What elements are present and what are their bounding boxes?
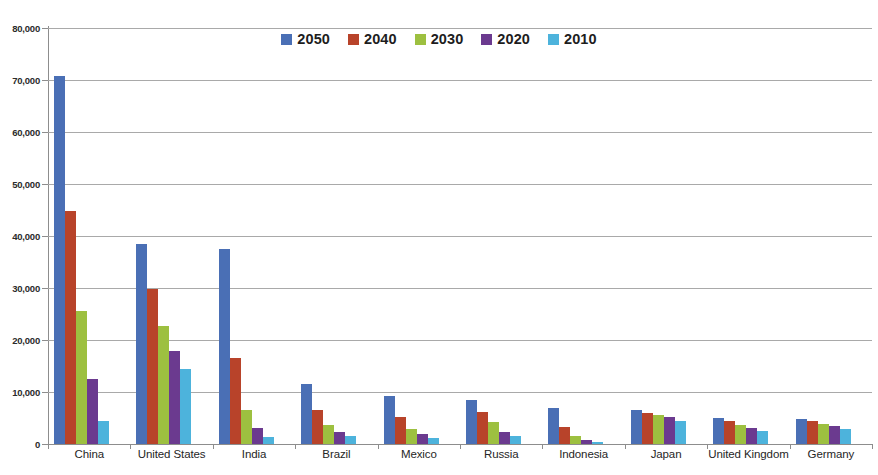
- bar: [147, 289, 158, 444]
- y-axis-tick-label: 50,000: [12, 179, 40, 190]
- y-axis-tick-label: 30,000: [12, 283, 40, 294]
- bar: [98, 421, 109, 444]
- legend-item-label: 2030: [431, 31, 464, 47]
- y-axis-tick-label: 20,000: [12, 335, 40, 346]
- legend-item[interactable]: 2030: [415, 31, 464, 47]
- y-tick-30000: [42, 288, 48, 289]
- y-axis-tick-label: 0: [35, 439, 40, 450]
- bar: [312, 410, 323, 444]
- x-tick: [872, 444, 873, 449]
- bar: [488, 422, 499, 444]
- y-tick-20000: [42, 340, 48, 341]
- x-tick: [378, 444, 379, 449]
- y-tick-60000: [42, 132, 48, 133]
- bar: [581, 440, 592, 444]
- y-axis-tick-label: 70,000: [12, 75, 40, 86]
- x-axis-tick-label: United Kingdom: [707, 448, 789, 472]
- x-tick: [707, 444, 708, 449]
- bar-group: [542, 28, 624, 444]
- bar-group: [295, 28, 377, 444]
- x-tick: [542, 444, 543, 449]
- bar: [158, 326, 169, 444]
- y-tick-70000: [42, 80, 48, 81]
- bar: [252, 428, 263, 444]
- bar: [499, 432, 510, 444]
- bar: [406, 429, 417, 444]
- legend-swatch-icon: [281, 34, 292, 45]
- bar: [54, 76, 65, 444]
- bar: [796, 419, 807, 444]
- x-axis-tick-label: Brazil: [295, 448, 377, 472]
- legend-item-label: 2010: [564, 31, 597, 47]
- y-axis-tick-label: 40,000: [12, 231, 40, 242]
- bar: [76, 311, 87, 444]
- bar: [735, 425, 746, 444]
- bar: [87, 379, 98, 444]
- bar: [384, 396, 395, 444]
- x-axis-labels: ChinaUnited StatesIndiaBrazilMexicoRussi…: [48, 448, 872, 472]
- bar: [592, 442, 603, 444]
- bar-group: [707, 28, 789, 444]
- x-axis-tick-label: Russia: [460, 448, 542, 472]
- bar: [653, 415, 664, 444]
- bar: [757, 431, 768, 444]
- legend-item[interactable]: 2040: [348, 31, 397, 47]
- x-tick: [460, 444, 461, 449]
- bar: [345, 436, 356, 444]
- legend-item-label: 2050: [297, 31, 330, 47]
- bar: [807, 421, 818, 444]
- bar-group: [213, 28, 295, 444]
- bar-group: [790, 28, 872, 444]
- legend-item-label: 2020: [497, 31, 530, 47]
- bar-group: [625, 28, 707, 444]
- chart-legend: 20502040203020202010: [0, 31, 878, 47]
- y-axis-tick-label: 10,000: [12, 387, 40, 398]
- bar: [466, 400, 477, 444]
- bar-group: [48, 28, 130, 444]
- bar: [301, 384, 312, 444]
- x-tick: [213, 444, 214, 449]
- legend-swatch-icon: [548, 34, 559, 45]
- bar-group: [378, 28, 460, 444]
- legend-item-label: 2040: [364, 31, 397, 47]
- bar: [230, 358, 241, 444]
- legend-swatch-icon: [415, 34, 426, 45]
- bar: [642, 413, 653, 444]
- x-tick: [625, 444, 626, 449]
- bar: [713, 418, 724, 444]
- bar: [136, 244, 147, 444]
- bar: [548, 408, 559, 444]
- bar: [241, 410, 252, 444]
- y-axis-tick-label: 60,000: [12, 127, 40, 138]
- legend-swatch-icon: [348, 34, 359, 45]
- bar-groups: [48, 28, 872, 444]
- legend-swatch-icon: [481, 34, 492, 45]
- bar: [65, 211, 76, 444]
- x-tick: [48, 444, 49, 449]
- bar: [840, 429, 851, 444]
- bar: [510, 436, 521, 444]
- bar: [818, 424, 829, 444]
- y-tick-50000: [42, 184, 48, 185]
- bar: [323, 425, 334, 444]
- x-tick: [130, 444, 131, 449]
- legend-item[interactable]: 2020: [481, 31, 530, 47]
- bar: [746, 428, 757, 444]
- y-tick-40000: [42, 236, 48, 237]
- bar: [417, 434, 428, 444]
- bar: [263, 437, 274, 444]
- bar: [395, 417, 406, 444]
- y-tick-80000: [42, 28, 48, 29]
- bar: [219, 249, 230, 444]
- x-tick: [295, 444, 296, 449]
- bar: [169, 351, 180, 444]
- x-axis-tick-label: India: [213, 448, 295, 472]
- bar: [477, 412, 488, 444]
- x-axis-tick-label: China: [48, 448, 130, 472]
- bar: [664, 417, 675, 444]
- bar: [724, 421, 735, 444]
- bar: [428, 438, 439, 444]
- legend-item[interactable]: 2010: [548, 31, 597, 47]
- legend-item[interactable]: 2050: [281, 31, 330, 47]
- bar: [675, 421, 686, 444]
